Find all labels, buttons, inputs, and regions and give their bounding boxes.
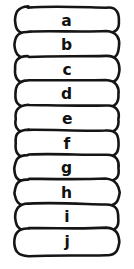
list-item[interactable]: j <box>14 228 119 257</box>
pill-c-label: c <box>63 61 72 79</box>
pill-b-label: b <box>61 36 72 54</box>
pill-e-label: e <box>62 110 73 128</box>
pill-h-label: h <box>61 184 72 202</box>
pill-a-label: a <box>61 12 71 30</box>
pill-i-label: i <box>64 208 69 226</box>
pill-group: abcdefghij <box>14 6 119 256</box>
stacked-pill-list: abcdefghij <box>0 0 134 269</box>
pill-f-label: f <box>63 135 70 153</box>
pill-g-label: g <box>61 159 72 177</box>
pill-d-label: d <box>61 85 72 103</box>
pill-j-label: j <box>64 233 70 251</box>
list-item[interactable]: b <box>14 31 119 59</box>
